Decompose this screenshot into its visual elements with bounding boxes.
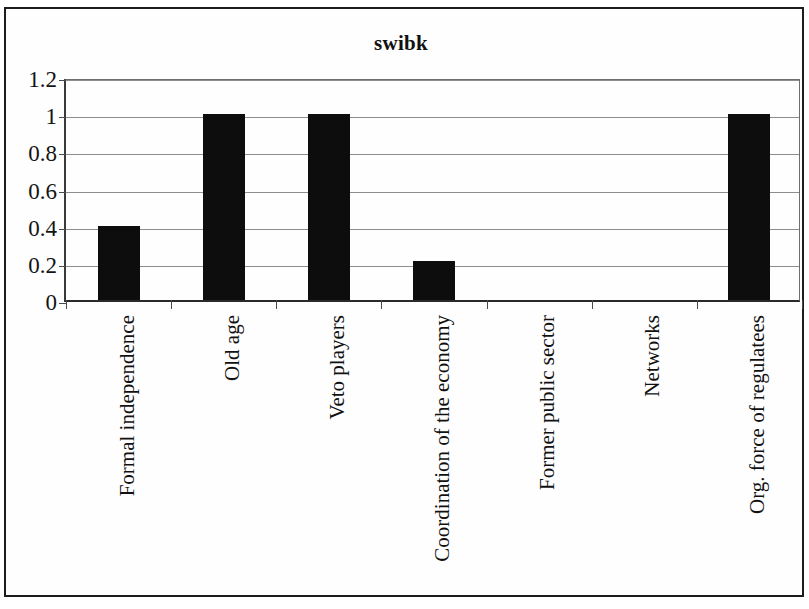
x-tick-mark bbox=[171, 300, 172, 309]
y-tick-mark bbox=[59, 154, 66, 155]
x-label-slot: Coordination of the economy bbox=[379, 309, 484, 599]
x-label-slot: Networks bbox=[590, 309, 695, 599]
x-axis-category-label: Coordination of the economy bbox=[432, 315, 453, 562]
bar-slot bbox=[276, 80, 381, 300]
bar-slot bbox=[381, 80, 486, 300]
bar-slot bbox=[592, 80, 697, 300]
x-tick-mark bbox=[381, 300, 382, 309]
x-label-slot: Veto players bbox=[274, 309, 379, 599]
x-axis-category-label: Formal independence bbox=[117, 315, 138, 496]
bar bbox=[203, 114, 245, 300]
bar-slot bbox=[487, 80, 592, 300]
x-tick-mark bbox=[802, 300, 803, 309]
y-tick-mark bbox=[59, 229, 66, 230]
x-label-slot: Formal independence bbox=[64, 309, 169, 599]
bar-slot bbox=[66, 80, 171, 300]
x-axis-category-label: Veto players bbox=[327, 315, 348, 419]
chart-frame: swibk 00.20.40.60.811.2 Formal independe… bbox=[4, 7, 804, 597]
x-tick-mark bbox=[66, 300, 67, 309]
x-label-slot: Old age bbox=[169, 309, 274, 599]
x-axis-category-label: Networks bbox=[642, 315, 663, 397]
y-tick-mark bbox=[59, 117, 66, 118]
y-tick-label: 0 bbox=[46, 291, 58, 314]
bar bbox=[413, 261, 455, 300]
x-tick-mark bbox=[487, 300, 488, 309]
bar-slot bbox=[697, 80, 802, 300]
y-tick-label: 0.8 bbox=[28, 142, 57, 165]
x-axis-labels: Formal independenceOld ageVeto playersCo… bbox=[64, 309, 800, 599]
y-tick-label: 0.4 bbox=[28, 217, 57, 240]
y-tick-mark bbox=[59, 80, 66, 81]
x-label-slot: Former public sector bbox=[485, 309, 590, 599]
plot-area: 00.20.40.60.811.2 bbox=[64, 79, 800, 302]
x-axis-category-label: Old age bbox=[222, 315, 243, 381]
y-tick-label: 1 bbox=[46, 105, 58, 128]
bar bbox=[308, 114, 350, 300]
y-tick-mark bbox=[59, 266, 66, 267]
y-tick-mark bbox=[59, 303, 66, 304]
y-tick-mark bbox=[59, 192, 66, 193]
x-axis-category-label: Former public sector bbox=[537, 315, 558, 490]
x-tick-mark bbox=[592, 300, 593, 309]
bar bbox=[728, 114, 770, 300]
bar bbox=[98, 226, 140, 300]
x-tick-mark bbox=[697, 300, 698, 309]
y-tick-label: 0.6 bbox=[28, 180, 57, 203]
bar-slot bbox=[171, 80, 276, 300]
x-tick-mark bbox=[276, 300, 277, 309]
y-tick-label: 0.2 bbox=[28, 254, 57, 277]
chart-title: swibk bbox=[6, 31, 796, 56]
y-tick-label: 1.2 bbox=[28, 68, 57, 91]
x-axis-category-label: Org. force of regulatees bbox=[747, 315, 768, 514]
x-label-slot: Org. force of regulatees bbox=[695, 309, 800, 599]
